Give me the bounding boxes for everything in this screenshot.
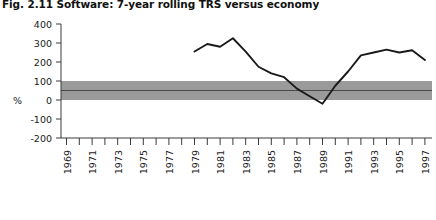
y-tick-label: -200 [30, 133, 52, 144]
y-tick-label: 0 [46, 95, 52, 106]
x-tick-label: 1987 [292, 150, 303, 174]
y-tick-label: 300 [34, 38, 52, 49]
figure-container: Fig. 2.11 Software: 7-year rolling TRS v… [0, 0, 436, 220]
y-axis-unit-label: % [13, 95, 22, 106]
y-tick-label: 100 [34, 76, 52, 87]
x-tick-label: 1969 [62, 150, 73, 174]
x-tick-label: 1971 [87, 150, 98, 174]
chart-svg: 400 300 200 100 0 -100 -200 % [0, 14, 436, 220]
x-tick-label: 1997 [420, 150, 431, 174]
x-tick-label: 1989 [318, 150, 329, 174]
x-tick-label: 1983 [241, 150, 252, 174]
y-tick-label: 400 [34, 19, 52, 30]
y-ticks [56, 24, 61, 138]
x-tick-label: 1993 [369, 150, 380, 174]
x-tick-label: 1973 [113, 150, 124, 174]
figure-title: Fig. 2.11 Software: 7-year rolling TRS v… [2, 0, 319, 10]
x-tick-label: 1975 [138, 150, 149, 174]
x-tick-label: 1985 [266, 150, 277, 174]
y-tick-label: 200 [34, 57, 52, 68]
y-tick-label: -100 [30, 114, 52, 125]
x-tick-label: 1995 [394, 150, 405, 174]
x-tick-label: 1981 [215, 150, 226, 174]
plot-area: 400 300 200 100 0 -100 -200 % [0, 14, 436, 220]
x-ticks [67, 138, 425, 145]
x-tick-label: 1979 [190, 150, 201, 174]
x-tick-label: 1991 [343, 150, 354, 174]
x-tick-label: 1977 [164, 150, 175, 174]
